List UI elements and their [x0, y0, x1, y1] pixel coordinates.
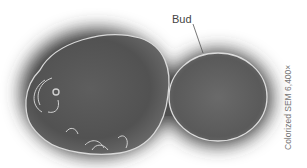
bud-label: Bud: [172, 13, 192, 25]
sem-micrograph: Bud Colorized SEM 6,400×: [0, 0, 307, 168]
bud-label-pointer: [193, 24, 203, 53]
yeast-cell-image: [0, 0, 307, 168]
magnification-caption: Colorized SEM 6,400×: [283, 65, 293, 150]
bud-cell: [169, 53, 267, 141]
